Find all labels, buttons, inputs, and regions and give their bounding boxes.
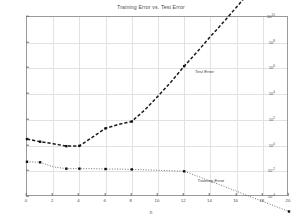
data-point-marker — [39, 141, 41, 143]
x-tick-mark — [52, 193, 53, 196]
y-tick-mark — [26, 16, 29, 17]
data-point-marker — [39, 161, 41, 163]
gridline-horizontal — [27, 171, 287, 172]
y-tick-label: 102 — [269, 116, 275, 122]
x-tick-label: 4 — [77, 198, 79, 203]
data-point-marker — [78, 145, 80, 147]
series-layer — [27, 17, 302, 167]
series-line-test-error — [27, 0, 289, 146]
x-tick-mark — [104, 193, 105, 196]
data-point-marker — [65, 167, 67, 169]
figure: Training Error vs. Test Error 1010108106… — [0, 0, 302, 223]
y-tick-mark — [26, 67, 29, 68]
data-point-marker — [26, 138, 28, 140]
annotation-test-error: Test Error — [195, 69, 214, 74]
data-point-marker — [183, 65, 185, 67]
x-tick-mark — [131, 193, 132, 196]
x-tick-mark — [209, 193, 210, 196]
x-tick-label: 14 — [207, 198, 212, 203]
data-point-marker — [26, 161, 28, 163]
data-point-marker — [104, 168, 106, 170]
x-tick-label: 16 — [233, 198, 238, 203]
y-tick-mark — [26, 41, 29, 42]
y-tick-label: 10-4 — [268, 193, 275, 199]
y-tick-mark — [26, 93, 29, 94]
y-tick-label: 106 — [269, 64, 275, 70]
x-tick-label: 2 — [51, 198, 53, 203]
y-tick-label: 1010 — [267, 13, 275, 19]
x-tick-mark — [157, 193, 158, 196]
x-tick-label: 0 — [25, 198, 27, 203]
x-tick-mark — [183, 193, 184, 196]
plot-area — [26, 16, 288, 196]
x-tick-mark — [26, 193, 27, 196]
x-tick-mark — [235, 193, 236, 196]
y-tick-mark — [26, 119, 29, 120]
x-tick-label: 20 — [286, 198, 291, 203]
chart-title: Training Error vs. Test Error — [0, 4, 302, 10]
x-tick-label: 10 — [155, 198, 160, 203]
y-tick-mark — [26, 196, 29, 197]
x-tick-label: 18 — [259, 198, 264, 203]
y-tick-label: 104 — [269, 90, 275, 96]
x-tick-label: 12 — [181, 198, 186, 203]
x-tick-mark — [78, 193, 79, 196]
data-point-marker — [183, 170, 185, 172]
data-point-marker — [131, 168, 133, 170]
data-point-marker — [78, 167, 80, 169]
data-point-marker — [65, 145, 67, 147]
y-tick-mark — [26, 144, 29, 145]
y-tick-label: 100 — [269, 141, 275, 147]
data-point-marker — [104, 127, 106, 129]
x-tick-label: 6 — [103, 198, 105, 203]
y-tick-mark — [26, 170, 29, 171]
x-tick-mark — [288, 193, 289, 196]
y-tick-label: 108 — [269, 39, 275, 45]
y-tick-label: 10-2 — [268, 167, 275, 173]
x-tick-mark — [262, 193, 263, 196]
x-tick-label: 8 — [130, 198, 132, 203]
data-point-marker — [131, 120, 133, 122]
x-axis-label: n — [0, 210, 302, 215]
annotation-training-error: Training Error — [198, 178, 225, 183]
